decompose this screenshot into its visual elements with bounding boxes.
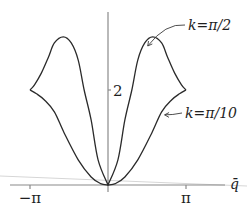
y-tick-label-0: 2: [113, 82, 123, 100]
x-axis-label: q̄: [230, 176, 239, 192]
series-label-0: k=π/2: [188, 17, 231, 33]
x-tick-label-1: π: [181, 189, 191, 207]
dispersion-chart: −ππ2 k=π/2k=π/10 q̄: [0, 0, 247, 218]
x-tick-label-0: −π: [19, 189, 42, 207]
series-label-1: k=π/10: [185, 105, 237, 121]
annotation-arrow-0: [148, 25, 185, 46]
